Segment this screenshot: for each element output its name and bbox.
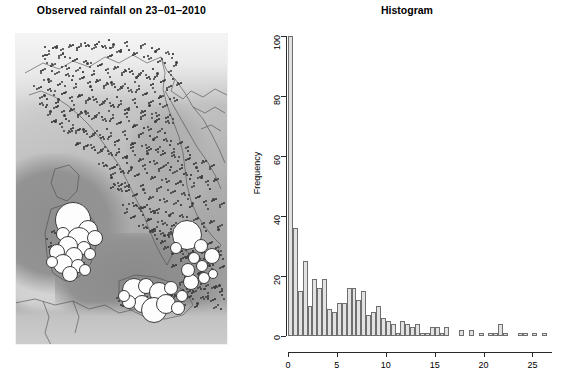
- rain-gauge-dot: [149, 208, 151, 210]
- rain-gauge-dot: [65, 65, 67, 67]
- rain-gauge-dot: [186, 174, 188, 176]
- y-axis-line: [286, 36, 287, 336]
- rain-gauge-dot: [172, 122, 174, 124]
- rain-gauge-dot: [111, 154, 113, 156]
- rain-gauge-dot: [159, 60, 161, 62]
- rain-gauge-dot: [203, 288, 205, 290]
- rain-gauge-dot: [207, 297, 209, 299]
- rain-gauge-dot: [157, 151, 159, 153]
- rain-gauge-dot: [196, 305, 198, 307]
- rain-gauge-dot: [128, 49, 130, 51]
- rain-gauge-dot: [108, 110, 110, 112]
- rain-gauge-dot: [140, 118, 142, 120]
- x-axis-tick-label: 5: [325, 360, 349, 370]
- high-rainfall-circle: [79, 264, 91, 276]
- histogram-panel: Histogram Frequency 020406080100 0510152…: [243, 0, 571, 384]
- rain-gauge-dot: [174, 190, 176, 192]
- rain-gauge-dot: [203, 222, 204, 223]
- rain-gauge-dot: [169, 114, 171, 116]
- rain-gauge-dot: [110, 176, 113, 179]
- rain-gauge-dot: [179, 180, 182, 183]
- rain-gauge-dot: [146, 92, 148, 94]
- rain-gauge-dot: [162, 166, 164, 168]
- rain-gauge-dot: [33, 85, 35, 87]
- rain-gauge-dot: [80, 45, 82, 47]
- rain-gauge-dot: [184, 256, 186, 258]
- rain-gauge-dot: [178, 156, 180, 158]
- rain-gauge-dot: [187, 146, 188, 147]
- rain-gauge-dot: [200, 288, 202, 290]
- rain-gauge-dot: [166, 224, 168, 226]
- histogram-bar: [532, 333, 537, 336]
- rain-gauge-dot: [111, 54, 113, 56]
- rain-gauge-dot: [167, 116, 169, 118]
- rain-gauge-dot: [130, 169, 132, 171]
- rain-gauge-dot: [136, 52, 138, 54]
- rain-gauge-dot: [132, 202, 134, 204]
- rain-gauge-dot: [50, 80, 52, 82]
- rain-gauge-dot: [172, 78, 173, 79]
- rain-gauge-dot: [189, 154, 191, 156]
- rain-gauge-dot: [65, 91, 67, 93]
- rain-gauge-dot: [214, 298, 216, 300]
- rain-gauge-dot: [135, 91, 137, 93]
- rain-gauge-dot: [144, 110, 146, 112]
- high-rainfall-circle: [208, 269, 218, 279]
- rain-gauge-dot: [134, 154, 136, 156]
- rain-gauge-dot: [186, 216, 187, 217]
- rain-gauge-dot: [217, 246, 219, 248]
- rain-gauge-dot: [138, 88, 139, 89]
- rain-gauge-dot: [117, 182, 119, 184]
- rain-gauge-dot: [146, 172, 147, 173]
- rain-gauge-dot: [76, 58, 78, 60]
- rain-gauge-dot: [203, 226, 205, 228]
- rain-gauge-dot: [126, 138, 127, 139]
- rain-gauge-dot: [62, 53, 63, 54]
- rain-gauge-dot: [128, 189, 129, 190]
- rain-gauge-dot: [146, 204, 148, 206]
- x-axis-tick: [484, 352, 485, 357]
- rain-gauge-dot: [190, 295, 192, 297]
- rain-gauge-dot: [126, 155, 128, 157]
- rain-gauge-dot: [89, 85, 92, 88]
- rain-gauge-dot: [104, 45, 106, 47]
- high-rainfall-circle: [62, 266, 78, 282]
- rain-gauge-dot: [131, 91, 133, 93]
- rain-gauge-dot: [104, 100, 105, 101]
- rain-gauge-dot: [140, 210, 142, 212]
- rain-gauge-dot: [195, 166, 198, 169]
- rain-gauge-dot: [146, 227, 148, 229]
- rain-gauge-dot: [67, 73, 69, 75]
- rain-gauge-dot: [189, 178, 191, 180]
- x-axis-tick: [337, 352, 338, 357]
- rain-gauge-dot: [212, 264, 213, 265]
- rain-gauge-dot: [95, 98, 97, 100]
- rain-gauge-dot: [164, 132, 166, 134]
- rain-gauge-dot: [112, 117, 113, 118]
- rain-gauge-dot: [51, 70, 52, 71]
- rain-gauge-dot: [94, 132, 95, 133]
- rain-gauge-dot: [173, 148, 175, 150]
- x-axis-tick: [435, 352, 436, 357]
- rain-gauge-dot: [41, 102, 43, 104]
- histogram-bar: [469, 330, 474, 336]
- rain-gauge-dot: [108, 39, 110, 41]
- rain-gauge-dot: [151, 117, 153, 119]
- rain-gauge-dot: [88, 97, 90, 99]
- rain-gauge-dot: [112, 186, 114, 188]
- rain-gauge-dot: [167, 246, 168, 247]
- rain-gauge-dot: [150, 128, 151, 129]
- rainfall-map-image: [15, 33, 228, 345]
- rain-gauge-dot: [53, 230, 55, 232]
- rain-gauge-dot: [158, 48, 159, 49]
- rain-gauge-dot: [152, 68, 153, 69]
- rain-gauge-dot: [170, 140, 171, 141]
- rain-gauge-dot: [114, 144, 116, 146]
- rain-gauge-dot: [217, 228, 220, 231]
- rain-gauge-dot: [65, 118, 67, 120]
- rain-gauge-dot: [61, 81, 63, 83]
- x-axis-tick-label: 25: [520, 360, 544, 370]
- rain-gauge-dot: [132, 150, 134, 152]
- rain-gauge-dot: [156, 162, 157, 163]
- map-panel: Observed rainfall on 23−01‒2010: [0, 0, 243, 384]
